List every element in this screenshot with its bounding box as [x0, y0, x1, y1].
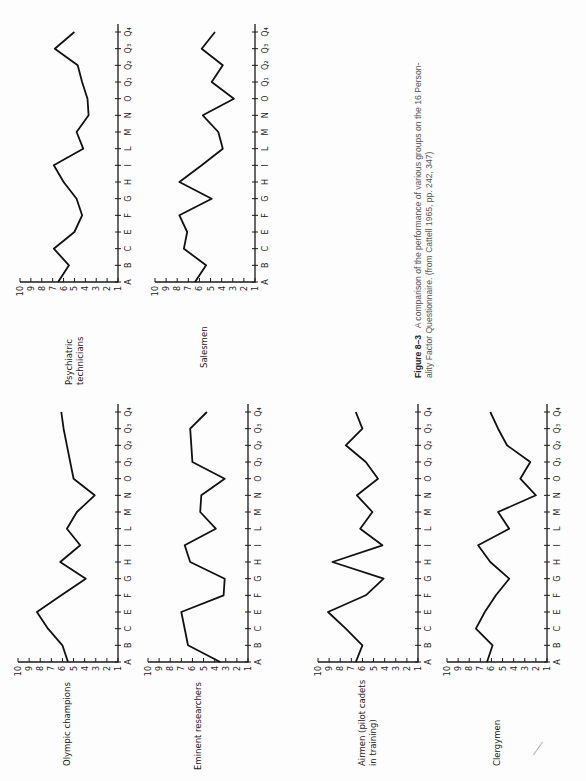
value-tick-label: 8: [465, 666, 474, 671]
category-tick-label: L: [553, 526, 562, 531]
category-tick-label: E: [553, 609, 562, 614]
group-label: Clergymen: [492, 720, 503, 766]
profile-line: [476, 412, 536, 662]
category-tick-label: Q₃: [553, 424, 562, 434]
value-tick-label: 3: [521, 666, 530, 671]
group-label-line: technicians: [75, 337, 86, 385]
category-tick-label: Q₄: [553, 407, 562, 417]
value-tick-label: 9: [454, 666, 463, 671]
group-label-line: Eminent researchers: [193, 682, 204, 770]
category-tick-label: G: [553, 576, 562, 582]
category-tick-label: I: [553, 544, 562, 546]
group-label: Olympic champions: [62, 682, 73, 766]
caption-line-2: ality Factor Questionnaire. (from Cattel…: [424, 28, 435, 378]
axis-lines: [447, 404, 547, 662]
group-label: Eminent researchers: [193, 682, 204, 770]
value-tick-label: 4: [510, 666, 519, 671]
group-label: Airmen (pilot cadetsin training): [357, 680, 379, 766]
category-tick-label: H: [553, 559, 562, 565]
caption-line-1: Figure 8–3 A comparison of the performan…: [413, 28, 424, 378]
group-label: Salesmen: [199, 326, 210, 368]
value-tick-label: 6: [487, 666, 496, 671]
group-label-line: Salesmen: [199, 326, 210, 368]
category-tick-label: Q₂: [553, 441, 562, 451]
group-label-line: Psychiatric: [64, 337, 75, 385]
value-tick-label: 1: [543, 666, 552, 671]
category-tick-label: N: [553, 492, 562, 498]
category-tick-label: O: [553, 476, 562, 482]
chart-clergymen: 12345678910ABCEFGHILMNOQ₁Q₂Q₃Q₄: [0, 0, 586, 781]
figure-page: 12345678910ABCEFGHILMNOQ₁Q₂Q₃Q₄123456789…: [0, 0, 586, 781]
group-label: Psychiatrictechnicians: [64, 337, 86, 385]
category-tick-label: F: [553, 593, 562, 598]
category-tick-label: A: [553, 659, 562, 665]
value-tick-label: 10: [443, 666, 452, 676]
value-tick-label: 5: [499, 666, 508, 671]
figure-caption: Figure 8–3 A comparison of the performan…: [413, 28, 434, 378]
group-label-line: Airmen (pilot cadets: [357, 680, 368, 766]
category-tick-label: M: [553, 508, 562, 515]
category-tick-label: Q₁: [553, 457, 562, 467]
value-tick-label: 7: [476, 666, 485, 671]
figure-number: Figure 8–3: [413, 335, 423, 378]
value-tick-label: 2: [532, 666, 541, 671]
group-label-line: in training): [368, 680, 379, 766]
category-tick-label: B: [553, 643, 562, 649]
group-label-line: Olympic champions: [62, 682, 73, 766]
group-label-line: Clergymen: [492, 720, 503, 766]
category-tick-label: C: [553, 625, 562, 631]
